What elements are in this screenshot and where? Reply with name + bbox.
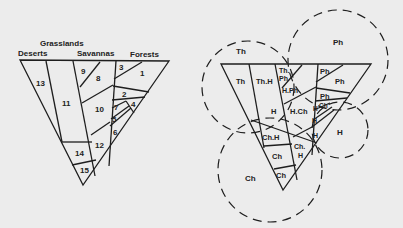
svg-text:Ch.H: Ch.H [262,133,280,142]
svg-text:H.Ch: H.Ch [290,107,308,116]
header-savannas: Savannas [77,49,115,58]
svg-text:11: 11 [62,99,71,108]
biome-diagram: Grasslands Deserts Savannas Forests 13 1… [0,0,403,228]
svg-text:13: 13 [36,79,45,88]
svg-text:H: H [271,107,276,116]
svg-text:Ph: Ph [320,67,330,76]
svg-text:Th.H: Th.H [256,77,273,86]
svg-text:1: 1 [140,69,145,78]
svg-text:14: 14 [75,149,84,158]
header-forests: Forests [130,50,159,59]
svg-text:3: 3 [119,63,124,72]
circle-label-th: Th [236,47,246,56]
svg-text:Ch: Ch [272,152,282,161]
svg-text:Ch: Ch [319,102,328,109]
svg-text:H: H [312,117,317,124]
svg-text:4: 4 [131,100,136,109]
svg-text:H: H [313,132,318,139]
svg-text:Ph: Ph [279,75,288,82]
svg-text:Ph: Ph [320,92,330,101]
header-grasslands: Grasslands [40,39,84,48]
svg-text:10: 10 [95,105,104,114]
header-deserts: Deserts [18,49,48,58]
svg-text:Th: Th [236,77,246,86]
svg-text:Ph: Ph [335,77,345,86]
svg-text:8: 8 [96,74,101,83]
svg-text:Ch: Ch [276,171,286,180]
svg-text:2: 2 [122,90,127,99]
svg-text:12: 12 [95,141,104,150]
svg-text:Ch.: Ch. [294,143,305,150]
svg-text:5: 5 [112,115,117,124]
svg-text:Th.: Th. [279,67,290,74]
svg-text:9: 9 [81,67,86,76]
svg-text:15: 15 [80,166,89,175]
right-triangle-diagram: Th Ph H Ch Th Th.H Th. Ph H.Ph Ph Ph Ph … [202,10,388,222]
svg-text:H: H [298,152,303,159]
circle-label-ch: Ch [245,174,256,183]
circle-ph [288,10,388,110]
circle-label-ph: Ph [333,38,343,47]
left-triangle-diagram: Grasslands Deserts Savannas Forests 13 1… [18,39,169,185]
svg-text:H.Ph: H.Ph [282,87,298,94]
svg-text:6: 6 [113,128,118,137]
svg-text:H: H [313,105,318,112]
circle-label-h: H [337,128,343,137]
svg-text:7: 7 [114,103,119,112]
